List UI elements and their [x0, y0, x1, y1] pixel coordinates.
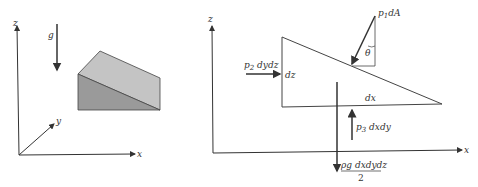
- p3-label: p3 dxdy: [356, 122, 392, 134]
- weight-denominator: 2: [358, 173, 364, 183]
- p1-force-arrow: [352, 16, 375, 64]
- fluid-element-diagram: z x y g z x θ p1dA p2 dydz dz dx p3 dxdy…: [0, 0, 478, 187]
- y-axis: [19, 124, 54, 155]
- weight-numerator: ρg dxdydz: [340, 160, 387, 170]
- triangle-element: [282, 37, 442, 107]
- wedge-solid: [78, 51, 160, 110]
- z-axis-label: z: [12, 18, 18, 28]
- x-axis-right-label: x: [464, 145, 469, 155]
- dz-label: dz: [285, 70, 296, 80]
- z-axis: [17, 26, 19, 155]
- angle-arc: [368, 46, 375, 47]
- p2-label: p2 dydz: [244, 60, 279, 72]
- x-axis: [19, 154, 135, 155]
- p1-label: p1dA: [378, 8, 401, 20]
- gravity-label: g: [48, 30, 54, 40]
- theta-label: θ: [365, 48, 371, 58]
- x-axis-label: x: [137, 149, 142, 159]
- z-axis-right-label: z: [207, 14, 213, 24]
- z-axis-right: [212, 26, 213, 153]
- dx-label: dx: [365, 93, 376, 103]
- left-panel: z x y g: [12, 18, 160, 159]
- right-panel: z x θ p1dA p2 dydz dz dx p3 dxdy ρg dxdy…: [207, 8, 469, 183]
- y-axis-label: y: [55, 116, 62, 126]
